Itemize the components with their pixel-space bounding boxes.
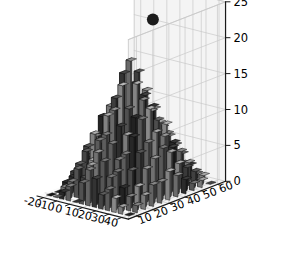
figure-canvas: -20-100102030401020304050600510152025 [0,0,293,259]
bar-face-front [173,174,178,197]
z-tick-label: 5 [234,138,241,152]
z-tick-label: 20 [234,31,249,45]
bar-face-front [165,170,170,200]
z-tick-label: 0 [234,174,241,188]
bar-face-front [112,197,117,213]
bar-face-front [92,178,97,208]
bar-face-front [74,168,79,198]
bar-face-front [86,169,91,206]
bar-face-front [126,196,131,212]
bar-face-front [198,179,203,187]
bar-face-front [157,181,162,204]
bar-face-front [66,186,71,202]
z-tick-label: 25 [234,0,249,9]
bar-face-front [118,206,123,214]
bar-face-front [181,178,186,194]
z-tick-label: 15 [234,67,249,81]
bar-face-front [189,182,194,190]
bar-face-front [133,205,138,213]
z-tick-label: 10 [234,103,249,117]
bar3d-plot: -20-100102030401020304050600510152025 [0,0,293,259]
bar-face-front [149,184,154,207]
scatter-point-marker [147,13,159,25]
x-tick-label: 40 [103,214,120,230]
bar-face-front [141,194,146,210]
bar-face-front [99,194,104,210]
